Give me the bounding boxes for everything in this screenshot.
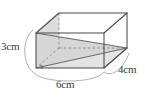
dimension-label-length: 6cm (56, 79, 74, 90)
dimension-label-height: 3cm (1, 41, 19, 52)
edge-top-right-oblique (104, 13, 127, 33)
height-brace-arc (25, 30, 33, 72)
geometry-figure: 3cm 6cm 4cm (0, 0, 145, 97)
dimension-label-depth: 4cm (118, 64, 136, 75)
